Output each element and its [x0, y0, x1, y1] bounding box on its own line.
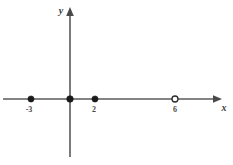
y-axis-label: y	[58, 5, 64, 16]
coordinate-plane-figure: y x -3 2 6	[0, 0, 233, 165]
point-marker-origin	[67, 96, 74, 103]
tick-label-minus-3: -3	[26, 105, 33, 114]
x-axis-label: x	[221, 102, 227, 113]
point-marker-minus-3	[28, 96, 34, 102]
axes-svg: y x -3 2 6	[0, 0, 233, 165]
tick-label-6: 6	[173, 105, 177, 114]
tick-label-2: 2	[92, 105, 96, 114]
y-axis-arrow-icon	[66, 7, 74, 16]
point-marker-2	[92, 96, 98, 102]
point-marker-6-open	[172, 96, 178, 102]
